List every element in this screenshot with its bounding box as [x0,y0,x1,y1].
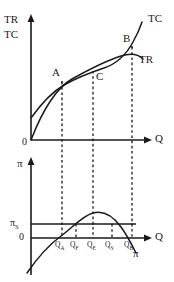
tick-label-qa-sub: A [60,245,64,251]
point-label-a: A [52,67,60,78]
top-chart-axes [28,14,152,143]
tick-label-qb-sub: B [129,245,133,251]
tick-label-qa: QA [55,241,64,251]
target-profit-label-sub: S [15,223,19,230]
profit-curve-label: π [133,248,139,259]
target-profit-label: πS [10,218,19,231]
top-chart-y-axis-label-tc: TC [4,29,18,40]
tick-label-qb: QB [124,241,133,251]
bottom-chart-origin-label: 0 [19,232,24,242]
point-label-b: B [123,33,130,44]
point-label-c: C [96,71,103,82]
total-revenue-curve-label: TR [139,54,153,65]
bottom-chart-x-axis-label: Q [155,231,163,242]
bottom-chart-y-axis-label: π [17,158,23,169]
profit-curve [27,212,136,273]
tick-label-qf-sub: F [75,245,78,251]
tick-label-qs-sub: S [110,245,113,251]
tick-label-qe-sub: E [92,245,95,251]
tick-label-qs: QS [105,241,113,251]
economics-figure: TR TC TC TR A C B 0 Q π πS 0 Q π QA QF Q… [0,0,174,282]
tick-label-qe: QE [87,241,96,251]
top-chart-x-axis-label: Q [155,133,163,144]
total-cost-curve-label: TC [148,13,162,24]
tick-label-qf: QF [70,241,78,251]
top-chart-origin-label: 0 [22,137,27,147]
top-chart-y-axis-label-tr: TR [4,14,18,25]
